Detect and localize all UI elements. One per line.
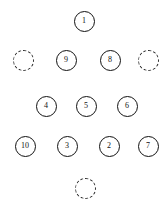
node-diagram-canvas: 19845610327: [0, 0, 167, 206]
node-label: 4: [44, 102, 48, 110]
node-label: 5: [84, 102, 88, 110]
node-7[interactable]: 7: [138, 136, 159, 157]
node-label: 1: [82, 17, 86, 25]
node-6[interactable]: 6: [117, 96, 138, 117]
empty-node-placeholder[interactable]: [13, 50, 34, 71]
node-3[interactable]: 3: [57, 136, 78, 157]
node-label: 6: [125, 102, 129, 110]
node-label: 10: [21, 142, 29, 150]
node-label: 3: [65, 142, 69, 150]
node-10[interactable]: 10: [15, 136, 36, 157]
node-5[interactable]: 5: [76, 96, 97, 117]
node-label: 8: [108, 56, 112, 64]
empty-node-placeholder[interactable]: [75, 178, 96, 199]
node-label: 2: [107, 142, 111, 150]
node-label: 7: [146, 142, 150, 150]
node-2[interactable]: 2: [99, 136, 120, 157]
node-8[interactable]: 8: [100, 50, 121, 71]
empty-node-placeholder[interactable]: [138, 50, 159, 71]
node-label: 9: [64, 56, 68, 64]
node-9[interactable]: 9: [56, 50, 77, 71]
node-1[interactable]: 1: [74, 11, 95, 32]
node-4[interactable]: 4: [36, 96, 57, 117]
